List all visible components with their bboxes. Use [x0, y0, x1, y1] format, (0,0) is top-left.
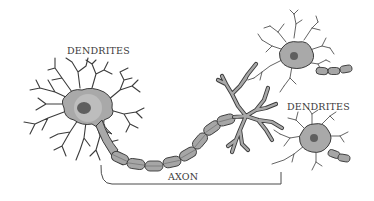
- lower-right-neuron: [272, 108, 351, 170]
- main-neuron: [24, 58, 144, 160]
- label-axon: AXON: [168, 171, 198, 182]
- lower-right-nucleus: [310, 134, 318, 142]
- upper-right-neuron: [248, 10, 353, 92]
- upper-right-axon-stub: [316, 65, 353, 75]
- lower-right-axon-stub: [327, 149, 350, 163]
- upper-right-nucleus: [290, 52, 298, 60]
- main-neuron-nucleus: [77, 102, 91, 114]
- label-dendrites-left: DENDRITES: [67, 45, 130, 56]
- axon-terminals: [218, 64, 282, 152]
- label-dendrites-right: DENDRITES: [287, 101, 350, 112]
- neuron-diagram: DENDRITES DENDRITES AXON: [0, 0, 374, 201]
